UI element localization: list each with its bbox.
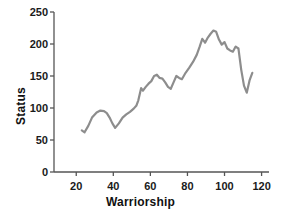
x-axis-tick-label: 40 xyxy=(107,180,119,192)
y-axis-tick-label: 50 xyxy=(20,134,48,146)
x-axis-tick-label: 60 xyxy=(144,180,156,192)
x-axis-title: Warriorship xyxy=(0,195,281,209)
data-series-line xyxy=(82,31,253,133)
x-axis-tick-label: 80 xyxy=(181,180,193,192)
y-axis-tick-label: 0 xyxy=(20,166,48,178)
y-axis-title: Status xyxy=(14,87,28,125)
y-axis-tick-label: 150 xyxy=(20,70,48,82)
y-axis-tick-label: 200 xyxy=(20,38,48,50)
chart-container: 050100150200250 20406080100120 Status Wa… xyxy=(0,0,281,211)
y-axis-tick-label: 250 xyxy=(20,6,48,18)
axis-lines xyxy=(54,12,269,172)
x-axis-tick-label: 100 xyxy=(215,180,233,192)
x-axis-tick-label: 120 xyxy=(252,180,270,192)
x-axis-tick-label: 20 xyxy=(70,180,82,192)
